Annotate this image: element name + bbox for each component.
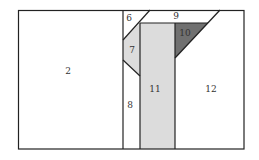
label-8: 8 [127, 100, 133, 110]
label-12: 12 [205, 84, 216, 94]
label-6: 6 [126, 13, 132, 23]
label-10: 10 [179, 28, 191, 38]
label-7: 7 [129, 45, 135, 55]
label-9: 9 [173, 11, 179, 21]
region-diagram: 2 6 7 8 9 10 11 12 [0, 0, 259, 160]
label-2: 2 [65, 66, 71, 76]
label-11: 11 [149, 84, 160, 94]
